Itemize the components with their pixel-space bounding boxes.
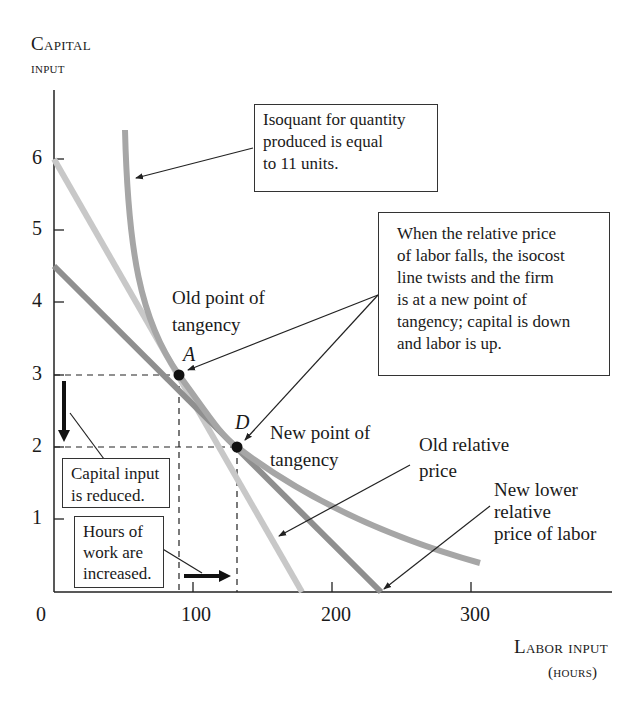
x-tick-200: 200 <box>306 603 366 626</box>
y-tick-3: 3 <box>26 362 48 385</box>
old-tangency-label-1: Old point of <box>172 286 265 310</box>
x-axis-subtitle: (hours) <box>548 664 597 681</box>
y-tick-5: 5 <box>26 217 48 240</box>
x-tick-100: 100 <box>166 603 226 626</box>
point-a-label: A <box>183 343 195 366</box>
y-axis-title: Capital <box>31 33 91 55</box>
point-d-label: D <box>235 411 249 434</box>
y-tick-1: 1 <box>26 506 48 529</box>
old-price-label-1: Old relative <box>419 433 509 457</box>
y-tick-4: 4 <box>26 289 48 312</box>
isoquant-annotation-box: Isoquant for quantity produced is equal … <box>254 104 438 192</box>
new-price-label-2: relative <box>494 500 551 524</box>
x-axis-title: Labor input <box>514 636 608 658</box>
old-tangency-label-2: tangency <box>172 313 241 337</box>
y-tick-6: 6 <box>26 146 48 169</box>
y-axis-subtitle: input <box>31 60 65 77</box>
y-axis-title-line1: Capital <box>31 33 91 54</box>
labor-up-arrow <box>184 570 231 582</box>
point-a-marker <box>174 370 185 381</box>
x-axis-title-line1: Labor input <box>514 636 608 657</box>
twist-annotation-box: When the relative price of labor falls, … <box>378 212 610 376</box>
new-tangency-label-2: tangency <box>270 448 339 472</box>
hours-increased-box: Hours of work are increased. <box>74 516 164 588</box>
x-tick-0: 0 <box>11 603 71 626</box>
capital-down-arrow <box>58 381 70 442</box>
y-tick-2: 2 <box>26 434 48 457</box>
new-tangency-label-1: New point of <box>270 421 370 445</box>
new-price-label-1: New lower <box>494 478 578 502</box>
new-price-label-3: price of labor <box>494 522 596 546</box>
old-price-label-2: price <box>419 459 457 483</box>
point-d-marker <box>232 442 243 453</box>
x-tick-300: 300 <box>445 603 505 626</box>
capital-reduced-box: Capital input is reduced. <box>62 458 170 508</box>
